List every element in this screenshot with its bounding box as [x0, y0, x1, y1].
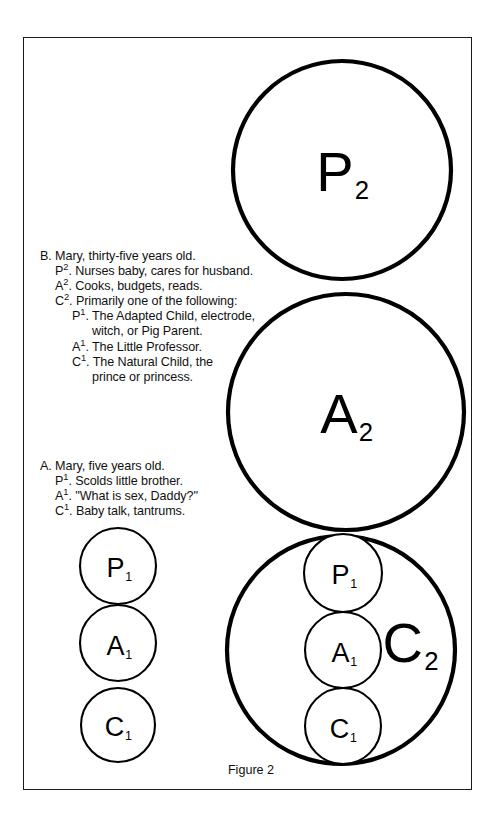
label-P1-left-subscript: 1: [125, 569, 132, 583]
label-C1-left-subscript: 1: [125, 728, 132, 742]
label-C1-inner-letter: C: [330, 714, 350, 744]
annotation-marker: A.: [40, 459, 52, 473]
annotation-text: witch, or Pig Parent.: [92, 324, 203, 338]
annotation-section-b: B. Mary, thirty-five years old.P2. Nurse…: [40, 249, 255, 385]
annotation-line: C1. Baby talk, tantrums.: [55, 504, 198, 519]
annotation-line: witch, or Pig Parent.: [92, 324, 255, 339]
annotation-line: C1. The Natural Child, the: [72, 355, 255, 370]
label-C2-letter: C: [383, 611, 423, 674]
annotation-text: . Baby talk, tantrums.: [69, 504, 185, 518]
annotation-text: . The Adapted Child, electrode,: [85, 309, 255, 323]
annotation-line: A1. ''What is sex, Daddy?'': [55, 489, 198, 504]
label-A1-left-subscript: 1: [125, 647, 132, 661]
annotation-marker: B.: [40, 249, 52, 263]
annotation-text: . The Natural Child, the: [86, 355, 213, 369]
label-A1-left: A1: [107, 633, 132, 660]
label-P2-subscript: 2: [355, 176, 369, 204]
annotation-section-a: A. Mary, five years old.P1. Scolds littl…: [40, 459, 198, 519]
annotation-text: . Scolds little brother.: [68, 474, 183, 488]
label-A2-letter: A: [320, 382, 357, 445]
label-P2-letter: P: [316, 140, 353, 203]
label-C1-inner: C1: [330, 716, 356, 743]
label-P1-inner: P1: [332, 562, 357, 589]
label-A2: A2: [320, 386, 372, 442]
figure-caption: Figure 2: [0, 763, 502, 777]
annotation-line: P1. Scolds little brother.: [55, 474, 198, 489]
label-C2-subscript: 2: [424, 647, 438, 675]
annotation-line: A1. The Little Professor.: [72, 340, 255, 355]
figure-border-frame: [23, 37, 472, 790]
annotation-text: . Nurses baby, cares for husband.: [68, 264, 253, 278]
annotation-text: prince or princess.: [92, 370, 193, 384]
label-A1-inner-subscript: 1: [350, 654, 357, 668]
label-C1-left: C1: [105, 714, 131, 741]
annotation-text: Mary, thirty-five years old.: [52, 249, 196, 263]
label-P1-inner-letter: P: [332, 560, 350, 590]
annotation-line: A2. Cooks, budgets, reads.: [55, 279, 255, 294]
label-A1-inner-letter: A: [332, 638, 350, 668]
annotation-line: P1. The Adapted Child, electrode,: [72, 309, 255, 324]
annotation-line: P2. Nurses baby, cares for husband.: [55, 264, 255, 279]
annotation-marker: C: [55, 294, 64, 308]
annotation-text: . Cooks, budgets, reads.: [68, 279, 202, 293]
annotation-marker: C: [55, 504, 64, 518]
label-A1-left-letter: A: [107, 631, 125, 661]
annotation-text: . ''What is sex, Daddy?'': [68, 489, 198, 503]
label-C1-inner-subscript: 1: [350, 730, 357, 744]
label-P1-left: P1: [107, 555, 132, 582]
label-P2: P2: [316, 144, 368, 200]
annotation-text: Mary, five years old.: [52, 459, 165, 473]
annotation-line: B. Mary, thirty-five years old.: [40, 249, 255, 264]
label-P1-left-letter: P: [107, 553, 125, 583]
annotation-line: prince or princess.: [92, 370, 255, 385]
annotation-text: . Primarily one of the following:: [69, 294, 237, 308]
label-A2-subscript: 2: [359, 418, 373, 446]
label-C2: C2: [383, 615, 438, 671]
annotation-marker: C: [72, 355, 81, 369]
annotation-text: . The Little Professor.: [85, 340, 201, 354]
label-P1-inner-subscript: 1: [350, 576, 357, 590]
label-A1-inner: A1: [332, 640, 357, 667]
label-C1-left-letter: C: [105, 712, 125, 742]
